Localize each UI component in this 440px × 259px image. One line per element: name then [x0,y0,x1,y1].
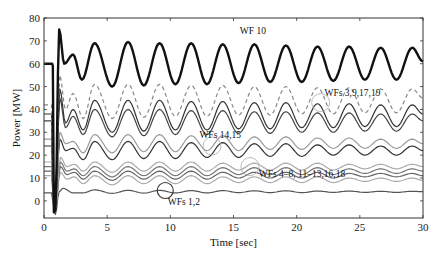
annotation-label: WFs 4–8, 11–13,16,18 [259,169,346,179]
y-tick-label: 40 [29,103,41,115]
x-tick-label: 15 [228,221,240,233]
power-chart: 05101520253001020304050607080 WF 10WFs 3… [0,0,440,259]
annotation-label: WFs 1,2 [168,197,200,207]
y-tick-label: 20 [29,149,41,161]
x-tick-label: 20 [291,221,303,233]
y-tick-label: 60 [29,58,41,70]
x-tick-label: 10 [165,221,177,233]
x-tick-label: 5 [104,221,110,233]
annotation-label: WFs 14,15 [199,130,241,140]
x-tick-label: 0 [41,221,47,233]
y-tick-label: 0 [35,195,41,207]
x-tick-label: 30 [418,221,430,233]
annotation-label: WF 10 [240,26,266,36]
y-tick-label: 10 [29,172,41,184]
x-tick-label: 25 [354,221,366,233]
x-axis-label: Time [sec] [210,236,257,248]
y-tick-label: 30 [29,126,41,138]
y-tick-label: 70 [29,35,41,47]
annotation-label: WFs 3,9,17,19 [324,88,380,98]
y-tick-label: 50 [29,81,41,93]
y-tick-label: 80 [29,12,41,24]
y-axis-label: Power [MW] [10,89,22,147]
